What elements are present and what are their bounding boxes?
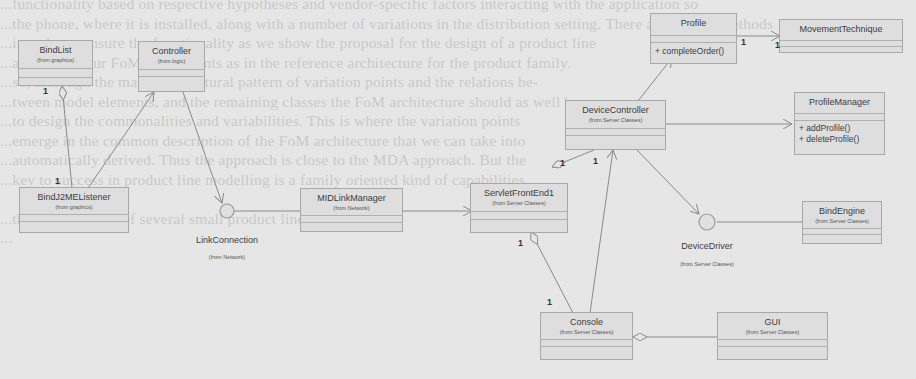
class-controller: Controller (from logic) [138,41,205,92]
operations-compartment [803,234,881,235]
class-name: ServletFrontEnd1 [471,184,567,199]
interface-devicedriver-name: DeviceDriver [662,241,752,251]
operations-compartment [301,222,402,223]
devicedriver-interface-circle [699,214,715,230]
class-name: BindEngine [803,202,881,217]
controller-linkconnection-dependency [183,92,222,203]
attributes-compartment [139,69,204,76]
operations-compartment [566,135,665,136]
class-name: Console [541,313,632,328]
class-servletfrontend1: ServletFrontEnd1 (from Server Classes) [470,183,568,233]
operations-compartment [19,77,92,78]
multiplicity-bindj2me: 1 [55,176,60,186]
attributes-compartment [566,128,665,135]
class-profilemanager: ProfileManager + addProfile() + deletePr… [794,92,885,155]
class-profile: Profile + completeOrder() [650,13,737,64]
devicectl-profile-dependency [638,58,672,101]
interface-devicedriver-package: (from Server Classes) [657,261,757,267]
class-gui: GUI (from Server Classes) [717,312,828,360]
class-name: GUI [718,313,827,328]
attributes-compartment [795,113,884,120]
multiplicity-bindlist: 1 [43,86,48,96]
attributes-compartment [651,35,736,42]
class-package: (from graphics) [19,56,92,64]
class-name: BindList [19,41,92,56]
class-midlinkmanager: MIDLinkManager (from Network) [300,188,403,232]
attributes-compartment [20,214,128,221]
devicectl-devicedriver-dependency [637,150,699,214]
linkconnection-interface-circle [220,204,234,218]
operations-compartment: + addProfile() + deleteProfile() [795,120,884,148]
multiplicity-profile: 1 [741,37,746,47]
class-name: DeviceController [566,101,665,116]
operations-compartment [20,221,128,222]
class-name: ProfileManager [795,93,884,108]
class-bindlist: BindList (from graphics) [18,40,93,86]
interface-linkconnection-package: (from Network) [182,254,272,260]
interface-linkconnection-name: LinkConnection [182,235,272,245]
class-package: (from Server Classes) [803,217,881,225]
multiplicity-movement: 1 [775,40,780,50]
class-package: (from Server Classes) [566,116,665,124]
multiplicity-devicectl: 1 [593,156,598,166]
class-name: MIDLinkManager [301,189,402,204]
operation-completeorder: + completeOrder() [651,42,736,60]
operations-compartment [541,346,632,347]
attributes-compartment [541,339,632,346]
console-devicectl-dependency [590,150,613,313]
operations-compartment [718,346,827,347]
bindj2me-controller-dependency [88,92,154,188]
attributes-compartment [471,211,567,219]
class-package: (from Server Classes) [718,328,827,336]
class-bindengine: BindEngine (from Server Classes) [802,201,882,244]
class-bindj2melistener: BindJ2MEListener (from graphics) [19,187,129,233]
attributes-compartment [301,215,402,222]
multiplicity-console: 1 [547,297,552,307]
operations-compartment [471,219,567,220]
servlet-devicectl-aggregation [552,150,594,167]
class-package: (from Server Classes) [541,328,632,336]
class-package: (from graphics) [20,203,128,211]
class-name: Profile [651,14,736,29]
class-package: (from logic) [139,57,204,65]
class-package: (from Server Classes) [471,199,567,207]
multiplicity-servlet-top: 1 [560,158,565,168]
class-name: MovementTechnique [780,20,902,35]
operation-deleteprofile: + deleteProfile() [799,134,880,145]
attributes-compartment [19,68,92,77]
class-package: (from Network) [301,204,402,212]
class-name: BindJ2MEListener [20,188,128,203]
operations-compartment [780,46,902,47]
class-name: Controller [139,42,204,57]
operations-compartment [139,76,204,77]
attributes-compartment [718,339,827,346]
multiplicity-servlet-bottom: 1 [518,238,523,248]
class-movementtechnique: MovementTechnique [779,19,903,53]
operation-addprofile: + addProfile() [799,123,880,134]
class-console: Console (from Server Classes) [540,312,633,360]
bindlist-bindj2me-aggregation [62,86,72,188]
class-devicecontroller: DeviceController (from Server Classes) [565,100,666,150]
